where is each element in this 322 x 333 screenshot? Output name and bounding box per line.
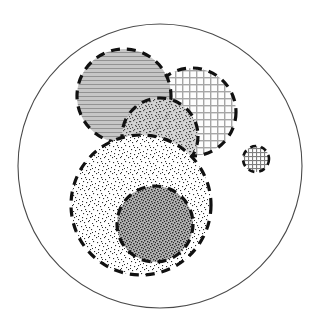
region-grid-small[interactable] bbox=[243, 146, 269, 172]
region-dark-speckle[interactable] bbox=[117, 186, 193, 262]
diagram-svg bbox=[0, 0, 322, 333]
venn-diagram-canvas bbox=[0, 0, 322, 333]
